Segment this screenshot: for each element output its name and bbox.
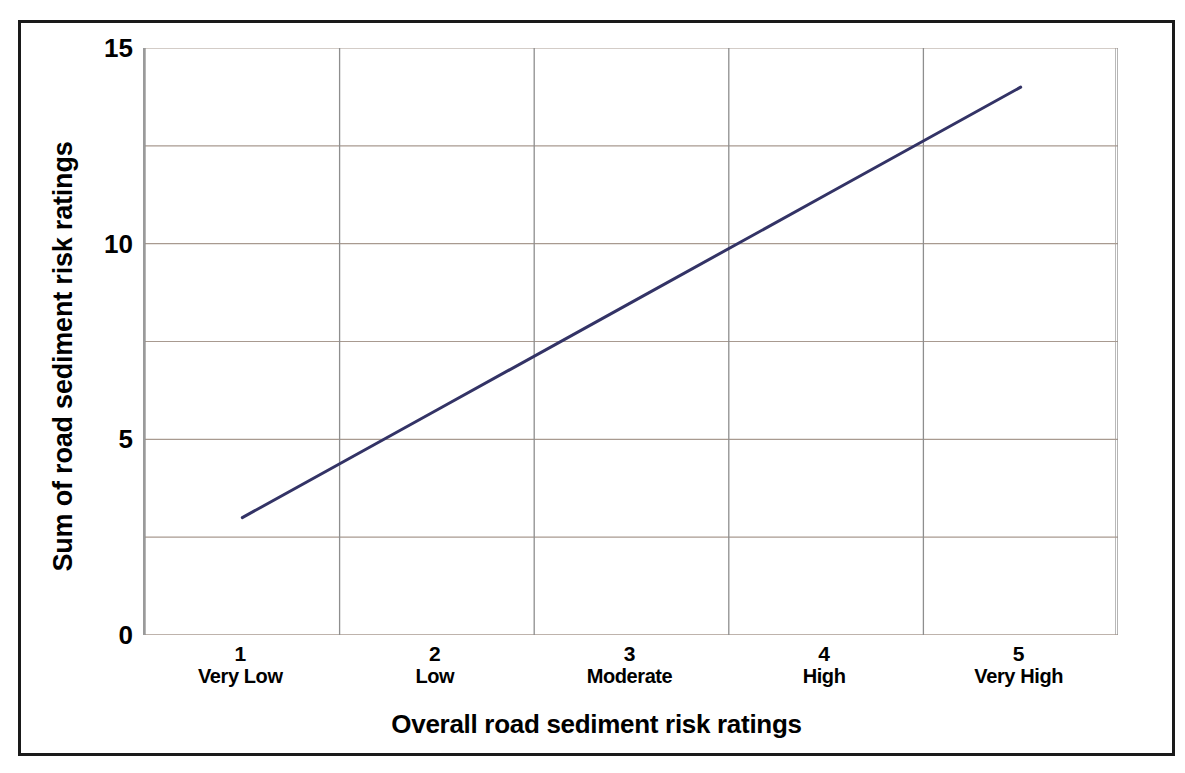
x-axis-tick-group: 5Very High [909, 643, 1129, 688]
x-axis-tick-group: 4High [714, 643, 934, 688]
series-line [242, 87, 1020, 517]
y-axis-tick-label: 0 [73, 622, 133, 648]
plot-area [143, 48, 1116, 635]
x-axis-tick-group: 3Moderate [520, 643, 740, 688]
x-axis-tick-name: Very High [909, 665, 1129, 688]
plot-svg [145, 48, 1118, 635]
chart-frame: Sum of road sediment risk ratings 151050… [18, 20, 1175, 756]
y-axis-tick-label: 15 [73, 35, 133, 61]
horizontal-gridlines [145, 48, 1118, 635]
x-axis-tick-name: High [714, 665, 934, 688]
x-axis-tick-labels: 1Very Low2Low3Moderate4High5Very High [143, 643, 1116, 705]
x-axis-tick-number: 1 [130, 643, 350, 665]
x-axis-tick-number: 2 [325, 643, 545, 665]
x-axis-tick-group: 2Low [325, 643, 545, 688]
x-axis-tick-number: 3 [520, 643, 740, 665]
x-axis-tick-name: Very Low [130, 665, 350, 688]
x-axis-tick-name: Low [325, 665, 545, 688]
x-axis-title: Overall road sediment risk ratings [21, 709, 1172, 740]
y-axis-tick-label: 10 [73, 231, 133, 257]
y-axis-tick-label: 5 [73, 426, 133, 452]
y-axis-tick-labels: 151050 [61, 48, 133, 635]
x-axis-tick-name: Moderate [520, 665, 740, 688]
chart-page: Sum of road sediment risk ratings 151050… [0, 0, 1185, 773]
x-axis-tick-group: 1Very Low [130, 643, 350, 688]
x-axis-tick-number: 5 [909, 643, 1129, 665]
data-series-line [242, 87, 1020, 517]
x-axis-tick-number: 4 [714, 643, 934, 665]
